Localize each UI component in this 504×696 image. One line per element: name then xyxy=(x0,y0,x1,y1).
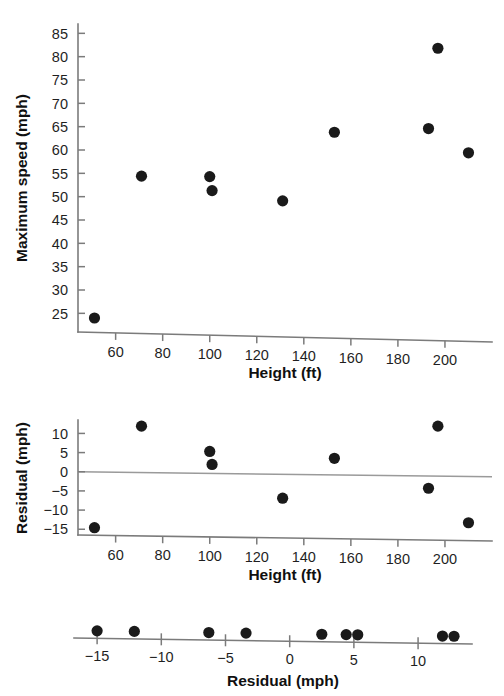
data-point xyxy=(423,123,434,134)
data-point xyxy=(206,459,217,470)
y-tick-label-chart1: 75 xyxy=(52,72,68,88)
x-axis-line-chart3 xyxy=(74,638,472,644)
x-tick-label-chart1: 120 xyxy=(245,347,269,363)
x-tick-label-chart2: 140 xyxy=(292,549,316,565)
y-tick-label-chart1: 55 xyxy=(52,166,68,182)
dotplot-dot xyxy=(316,629,327,640)
y-tick-label-chart1: 25 xyxy=(52,306,68,322)
x-tick-label-chart1: 80 xyxy=(155,345,171,361)
x-tick-label-chart2: 80 xyxy=(155,547,171,563)
data-point xyxy=(204,446,215,457)
x-tick-label-chart2: 120 xyxy=(245,549,269,565)
data-point xyxy=(329,453,340,464)
data-point xyxy=(463,147,474,158)
x-tick-label-chart2: 100 xyxy=(198,548,222,564)
y-tick-label-chart2: 5 xyxy=(60,445,68,461)
x-tick-label-chart1: 100 xyxy=(198,346,222,362)
data-point xyxy=(136,171,147,182)
data-point xyxy=(423,483,434,494)
scatter-plot-height-vs-speed: 8580757065605550454035302560801001201401… xyxy=(0,0,504,400)
dotplot-dot xyxy=(129,626,140,637)
x-tick-label-chart3: 5 xyxy=(350,652,358,668)
data-point xyxy=(329,127,340,138)
y-tick-label-chart1: 45 xyxy=(52,212,68,228)
data-point xyxy=(136,421,147,432)
y-tick-label-chart2: −15 xyxy=(43,521,68,537)
data-point xyxy=(204,171,215,182)
y-axis-title-chart2: Residual (mph) xyxy=(13,422,30,534)
data-point xyxy=(432,421,443,432)
data-point xyxy=(206,185,217,196)
x-tick-label-chart3: −5 xyxy=(217,650,234,666)
x-tick-label-chart3: 0 xyxy=(286,651,294,667)
x-tick-label-chart3: 10 xyxy=(410,653,426,669)
x-tick-label-chart2: 160 xyxy=(339,550,363,566)
y-tick-label-chart2: 0 xyxy=(60,464,68,480)
x-axis-line-chart1 xyxy=(78,332,492,342)
y-tick-label-chart1: 85 xyxy=(52,26,68,42)
y-tick-label-chart1: 35 xyxy=(52,259,68,275)
figure-container: 8580757065605550454035302560801001201401… xyxy=(0,0,504,696)
data-point xyxy=(89,312,100,323)
dotplot-dot xyxy=(92,625,103,636)
y-tick-label-chart1: 40 xyxy=(52,236,68,252)
y-tick-label-chart1: 70 xyxy=(52,96,68,112)
dotplot-dot xyxy=(437,630,448,641)
data-point xyxy=(463,517,474,528)
x-axis-title-chart1: Height (ft) xyxy=(248,364,321,381)
x-tick-label-chart2: 60 xyxy=(108,547,124,563)
data-point xyxy=(277,493,288,504)
y-tick-label-chart2: −5 xyxy=(51,483,68,499)
y-tick-label-chart1: 65 xyxy=(52,119,68,135)
x-tick-label-chart2: 200 xyxy=(433,551,457,567)
y-tick-label-chart1: 80 xyxy=(52,49,68,65)
y-tick-label-chart1: 30 xyxy=(52,282,68,298)
x-tick-label-chart3: −15 xyxy=(85,648,110,664)
x-axis-line-chart2 xyxy=(78,535,492,541)
x-tick-label-chart1: 200 xyxy=(433,352,457,368)
x-tick-label-chart3: −10 xyxy=(149,649,174,665)
y-tick-label-chart1: 50 xyxy=(52,189,68,205)
dotplot-dot xyxy=(203,627,214,638)
dotplot-dot xyxy=(240,627,251,638)
y-tick-label-chart2: 10 xyxy=(52,426,68,442)
dotplot-dot xyxy=(352,629,363,640)
y-axis-title-chart1: Maximum speed (mph) xyxy=(13,94,30,262)
dotplot-of-residuals: −15−10−50510Residual (mph) xyxy=(0,598,504,696)
dotplot-dot xyxy=(341,629,352,640)
data-point xyxy=(89,522,100,533)
y-tick-label-chart1: 60 xyxy=(52,142,68,158)
x-tick-label-chart2: 180 xyxy=(386,551,410,567)
zero-reference-line xyxy=(78,472,492,477)
x-tick-label-chart1: 160 xyxy=(339,350,363,366)
y-tick-label-chart2: −10 xyxy=(43,502,68,518)
x-axis-title-chart2: Height (ft) xyxy=(248,566,321,583)
x-tick-label-chart1: 60 xyxy=(108,344,124,360)
dotplot-dot xyxy=(448,631,459,642)
data-point xyxy=(277,195,288,206)
x-tick-label-chart1: 140 xyxy=(292,348,316,364)
residual-plot-vs-height: 1050−5−10−156080100120140160180200Height… xyxy=(0,398,504,598)
x-axis-title-chart3: Residual (mph) xyxy=(227,672,339,689)
x-tick-label-chart1: 180 xyxy=(386,351,410,367)
data-point xyxy=(432,43,443,54)
